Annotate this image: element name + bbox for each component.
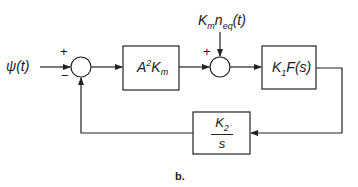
input-arg: (t) — [16, 58, 29, 74]
input-symbol: ψ — [6, 58, 16, 74]
plant-label: K1F(s) — [272, 59, 311, 78]
dist-k-sub: m — [207, 21, 215, 31]
plant-func: F(s) — [286, 59, 311, 75]
junction-2-plus: + — [203, 44, 211, 59]
fg-a: A — [137, 59, 146, 75]
disturbance-label: Kmneq(t) — [198, 12, 246, 31]
dist-k: K — [198, 12, 207, 28]
diagram-lines — [0, 0, 358, 187]
forward-gain-label: A2Km — [137, 58, 168, 77]
feedback-numerator: K2 — [211, 115, 233, 135]
fg-k: K — [151, 59, 160, 75]
fb-k-sub: 2 — [224, 123, 229, 133]
summing-junction-1 — [71, 57, 91, 77]
block-diagram: ψ(t) + − + Kmneq(t) A2Km K1F(s) K2 s b. — [0, 0, 358, 187]
dist-arg: (t) — [233, 12, 246, 28]
dist-n-sub: eq — [223, 21, 233, 31]
feedback-denominator: s — [211, 135, 233, 151]
input-label: ψ(t) — [6, 58, 29, 74]
figure-caption: b. — [175, 170, 185, 182]
dist-n: n — [215, 12, 223, 28]
junction-1-plus: + — [60, 44, 68, 59]
feedback-fraction: K2 s — [211, 115, 233, 151]
summing-junction-2 — [210, 57, 230, 77]
fg-k-sub: m — [161, 67, 169, 77]
plant-k: K — [272, 59, 281, 75]
fb-k: K — [215, 115, 224, 130]
junction-1-minus: − — [61, 68, 69, 83]
